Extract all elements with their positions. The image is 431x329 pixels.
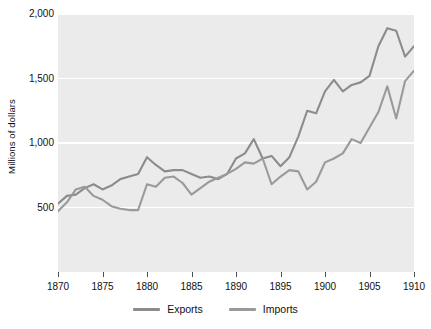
data-series-group xyxy=(58,28,414,211)
gridlines xyxy=(58,14,414,208)
x-tick-mark xyxy=(414,272,415,277)
x-tick-mark xyxy=(370,272,371,277)
x-tick-label: 1880 xyxy=(127,281,167,292)
legend-swatch-icon xyxy=(229,308,256,311)
x-tick-label: 1875 xyxy=(83,281,123,292)
legend-label: Exports xyxy=(167,304,203,315)
x-tick-label: 1895 xyxy=(261,281,301,292)
legend-item-exports[interactable]: Exports xyxy=(133,304,203,315)
y-tick-label: 2,000 xyxy=(6,9,54,19)
plot-svg xyxy=(58,14,414,272)
x-tick-mark xyxy=(281,272,282,277)
x-tick-mark xyxy=(58,272,59,277)
legend-item-imports[interactable]: Imports xyxy=(229,304,298,315)
series-line-imports xyxy=(58,71,414,212)
x-axis: 187018751880188518901895190019051910 xyxy=(0,272,431,298)
x-tick-mark xyxy=(103,272,104,277)
y-tick-label: 1,000 xyxy=(6,138,54,148)
x-tick-mark xyxy=(236,272,237,277)
x-tick-mark xyxy=(192,272,193,277)
x-tick-label: 1900 xyxy=(305,281,345,292)
x-tick-label: 1890 xyxy=(216,281,256,292)
x-tick-label: 1905 xyxy=(350,281,390,292)
legend-label: Imports xyxy=(263,304,298,315)
y-tick-label: 500 xyxy=(6,203,54,213)
x-tick-mark xyxy=(325,272,326,277)
x-tick-label: 1885 xyxy=(172,281,212,292)
x-tick-mark xyxy=(147,272,148,277)
x-tick-label: 1870 xyxy=(38,281,78,292)
chart-legend: ExportsImports xyxy=(0,300,431,318)
y-axis-tick-labels: 5001,0001,5002,000 xyxy=(4,0,54,280)
series-line-exports xyxy=(58,28,414,203)
plot-area xyxy=(58,14,414,272)
x-tick-label: 1910 xyxy=(394,281,431,292)
legend-swatch-icon xyxy=(133,308,160,311)
y-tick-label: 1,500 xyxy=(6,74,54,84)
line-chart-figure: Millions of dollars 5001,0001,5002,000 1… xyxy=(0,0,431,329)
